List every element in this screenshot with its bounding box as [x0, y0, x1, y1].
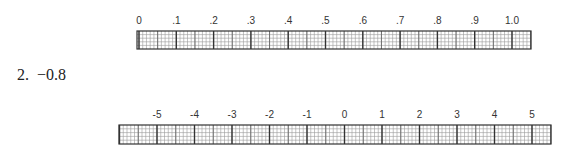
- grid-paper-strip: [0, 0, 565, 157]
